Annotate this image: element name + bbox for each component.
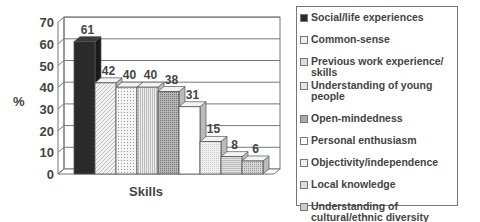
data-label: 6 [252, 142, 259, 156]
legend-label: Open-mindedness [311, 113, 403, 124]
legend-item: Understanding ofcultural/ethnic diversit… [300, 201, 457, 222]
legend-item: Common-sense [300, 34, 457, 45]
legend-swatch [300, 14, 308, 22]
legend-label: Social/life experiences [311, 12, 424, 23]
legend-swatch [300, 137, 308, 145]
legend-swatch [300, 159, 308, 167]
y-tick-label: 30 [40, 102, 54, 117]
data-label: 15 [207, 122, 221, 136]
legend-swatch [300, 82, 308, 90]
y-tick-label: 40 [40, 80, 54, 95]
data-label: 38 [165, 73, 179, 87]
data-label: 8 [231, 138, 238, 152]
legend-item: Previous work experience/skills [300, 56, 457, 78]
legend-item: Objectivity/independence [300, 157, 457, 168]
legend-item: Open-mindedness [300, 113, 457, 124]
legend: Social/life experiencesCommon-sensePrevi… [296, 6, 458, 206]
legend-swatch [300, 115, 308, 123]
legend-label: Understanding of young people [311, 80, 457, 102]
data-label: 40 [123, 68, 137, 82]
y-tick-label: 20 [40, 124, 54, 139]
legend-label: Understanding ofcultural/ethnic diversit… [311, 201, 429, 222]
y-tick-label: 50 [40, 59, 54, 74]
legend-item: Local knowledge [300, 179, 457, 190]
y-tick-label: 70 [40, 15, 54, 30]
y-tick-label: 0 [47, 167, 54, 182]
legend-swatch [300, 203, 308, 211]
legend-item: Understanding of young people [300, 80, 457, 102]
legend-label: Previous work experience/skills [311, 56, 443, 78]
data-label: 61 [81, 23, 95, 37]
legend-label: Objectivity/independence [311, 157, 438, 168]
data-label: 40 [144, 68, 158, 82]
legend-swatch [300, 181, 308, 189]
bar-chart: 010203040506070 6142404038311586 % Skill… [0, 0, 290, 222]
y-tick-label: 10 [40, 145, 54, 160]
x-axis-label: Skills [129, 184, 163, 199]
data-label: 42 [102, 64, 116, 78]
legend-label: Personal enthusiasm [311, 135, 417, 146]
legend-swatch [300, 36, 308, 44]
legend-label: Local knowledge [311, 179, 396, 190]
legend-item: Personal enthusiasm [300, 135, 457, 146]
legend-label: Common-sense [311, 34, 390, 45]
y-tick-label: 60 [40, 37, 54, 52]
legend-item: Social/life experiences [300, 12, 457, 23]
y-axis-label: % [13, 94, 25, 109]
data-label: 31 [186, 88, 200, 102]
legend-swatch [300, 58, 308, 66]
